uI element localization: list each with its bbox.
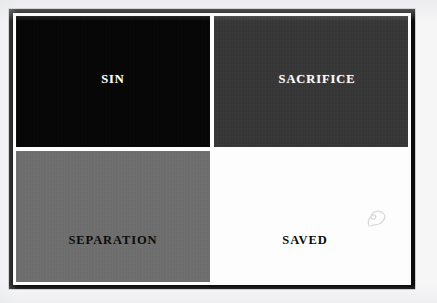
quadrant-grid: SIN SACRIFICE SEPARATION SAVED	[16, 16, 408, 282]
pencil-squiggle-icon	[364, 206, 390, 230]
quadrant-sin-label: SIN	[101, 73, 125, 86]
quadrant-separation[interactable]: SEPARATION	[16, 151, 210, 282]
scanned-page: SIN SACRIFICE SEPARATION SAVED	[0, 0, 437, 303]
quadrant-separation-label: SEPARATION	[68, 234, 157, 247]
quadrant-sacrifice-label: SACRIFICE	[279, 73, 356, 86]
quadrant-saved[interactable]: SAVED	[214, 151, 408, 282]
quadrant-sin[interactable]: SIN	[16, 16, 210, 147]
diagram-outer-frame: SIN SACRIFICE SEPARATION SAVED	[9, 9, 415, 289]
quadrant-sacrifice[interactable]: SACRIFICE	[214, 16, 408, 147]
quadrant-saved-label: SAVED	[282, 234, 327, 247]
diagram-inner-frame: SIN SACRIFICE SEPARATION SAVED	[13, 13, 411, 285]
